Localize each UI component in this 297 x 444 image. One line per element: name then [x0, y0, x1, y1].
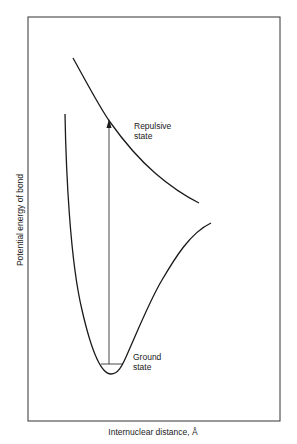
y-axis-label: Potential energy of bond — [15, 174, 25, 266]
ground-label-line1: Ground — [133, 352, 161, 362]
potential-energy-diagram — [0, 0, 297, 444]
ground-label-line2: state — [133, 362, 161, 372]
repulsive-label-line2: state — [134, 131, 171, 141]
x-axis-label: Internuclear distance, Å — [108, 427, 197, 437]
repulsive-state-label: Repulsive state — [134, 121, 171, 141]
ground-state-curve — [65, 114, 211, 374]
ground-state-label: Ground state — [133, 352, 161, 372]
repulsive-label-line1: Repulsive — [134, 121, 171, 131]
